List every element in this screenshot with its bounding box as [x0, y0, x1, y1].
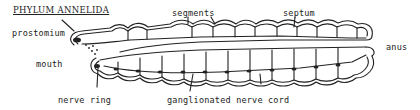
label-prostomium: prostomium [12, 28, 65, 38]
label-anus: anus [386, 42, 407, 52]
label-ganglionated-nerve-cord: ganglionated nerve cord [167, 95, 289, 105]
annelida-diagram: PHYLUM ANNELIDA [0, 0, 420, 110]
label-septum: septum [283, 8, 315, 18]
label-segments: segments [172, 8, 215, 18]
label-nerve-ring: nerve ring [58, 95, 111, 105]
label-mouth: mouth [36, 59, 63, 69]
